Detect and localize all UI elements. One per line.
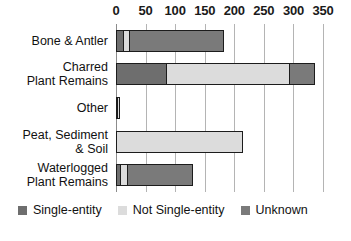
x-tick-label: 150 [194, 4, 215, 18]
bar-row: Waterlogged Plant Remains [116, 158, 323, 192]
category-label: Waterlogged Plant Remains [0, 161, 108, 189]
legend-label: Single-entity [33, 204, 102, 217]
legend-swatch-icon [18, 206, 27, 215]
bar-segment-unknown[interactable] [130, 31, 223, 51]
bar-segment-not-single-entity[interactable] [167, 64, 290, 84]
bar-segment-single-entity[interactable] [117, 64, 167, 84]
chart-legend: Single-entityNot Single-entityUnknown [18, 204, 324, 217]
x-tick-label: 100 [165, 4, 186, 18]
stacked-bar[interactable] [116, 164, 193, 186]
bar-segment-unknown[interactable] [128, 165, 193, 185]
legend-swatch-icon [118, 206, 127, 215]
bar-row: Peat, Sediment & Soil [116, 125, 323, 159]
legend-swatch-icon [241, 206, 250, 215]
x-tick-label: 50 [139, 4, 153, 18]
stacked-bar[interactable] [116, 63, 315, 85]
stacked-bar-chart: 050100150200250300350 Bone & AntlerCharr… [0, 0, 351, 241]
bar-segment-not-single-entity[interactable] [121, 165, 128, 185]
stacked-bar[interactable] [116, 97, 120, 119]
legend-label: Not Single-entity [133, 204, 225, 217]
legend-item[interactable]: Not Single-entity [118, 204, 225, 217]
legend-item[interactable]: Unknown [241, 204, 308, 217]
stacked-bar[interactable] [116, 30, 224, 52]
x-tick-label: 250 [253, 4, 274, 18]
bar-row: Charred Plant Remains [116, 58, 323, 92]
category-label: Other [0, 101, 108, 115]
bar-row: Other [116, 91, 323, 125]
gridline [323, 24, 324, 192]
legend-item[interactable]: Single-entity [18, 204, 102, 217]
x-tick-label: 350 [312, 4, 333, 18]
category-label: Charred Plant Remains [0, 60, 108, 88]
bar-segment-not-single-entity[interactable] [117, 132, 242, 152]
bar-segment-single-entity[interactable] [117, 31, 124, 51]
legend-label: Unknown [256, 204, 308, 217]
x-axis-tick-labels: 050100150200250300350 [116, 4, 323, 20]
bar-segment-not-single-entity[interactable] [118, 98, 119, 118]
bar-segment-unknown[interactable] [290, 64, 314, 84]
x-tick-label: 300 [283, 4, 304, 18]
plot-area: Bone & AntlerCharred Plant RemainsOtherP… [116, 24, 323, 192]
x-tick-label: 0 [112, 4, 119, 18]
x-tick-label: 200 [224, 4, 245, 18]
stacked-bar[interactable] [116, 131, 243, 153]
category-label: Bone & Antler [0, 34, 108, 48]
category-label: Peat, Sediment & Soil [0, 128, 108, 156]
bar-row: Bone & Antler [116, 24, 323, 58]
